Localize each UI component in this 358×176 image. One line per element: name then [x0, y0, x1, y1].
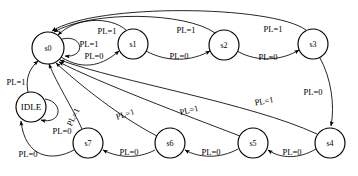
state-s2[interactable]: s2	[209, 30, 239, 60]
edge-label-s4-s5: PL=0	[283, 147, 302, 157]
edge-label-s0-s1: PL=0	[85, 51, 104, 61]
edge-label-s2-s0: PL=1	[177, 25, 196, 35]
edge-s4-s0[interactable]	[60, 60, 317, 134]
edge-label-idle-idle: PL=0	[53, 126, 72, 136]
edge-label-s6-s7: PL=0	[120, 147, 139, 157]
edge-label-s1-s0: PL=1	[98, 26, 117, 36]
edge-label-s7-s0: PL=1	[64, 106, 81, 127]
edge-label-s5-s6: PL=0	[202, 147, 221, 157]
edge-idle-s0[interactable]	[27, 61, 38, 92]
edge-s5-s0[interactable]	[59, 62, 240, 136]
state-idle[interactable]: IDLE	[16, 92, 46, 122]
state-label-idle: IDLE	[21, 102, 42, 112]
state-label-s0: s0	[44, 44, 51, 53]
state-s1[interactable]: s1	[118, 29, 148, 59]
edge-label-s5-s0: PL=1	[179, 103, 200, 117]
state-s7[interactable]: s7	[73, 128, 103, 158]
state-s4[interactable]: s4	[315, 128, 345, 158]
state-label-s3: s3	[309, 40, 316, 49]
edge-label-s2-s3: PL=0	[259, 52, 278, 62]
edge-label-idle-s0: PL=1	[7, 77, 26, 87]
edge-label-s3-s0: PL=1	[264, 24, 283, 34]
fsm-canvas: s0 s1 s2 s3 s4 s5	[0, 0, 358, 176]
edge-label-s3-s4: PL=0	[304, 87, 323, 97]
state-s0[interactable]: s0	[32, 32, 64, 64]
state-s6[interactable]: s6	[155, 128, 185, 158]
state-label-s6: s6	[166, 139, 173, 148]
state-label-s4: s4	[326, 139, 333, 148]
edge-s0-s0[interactable]	[62, 38, 80, 56]
edge-label-s6-s0: PL=1	[114, 106, 135, 121]
state-machine-diagram: s0 s1 s2 s3 s4 s5	[0, 0, 358, 176]
state-label-s2: s2	[220, 41, 227, 50]
edge-label-s7-idle: PL=0	[19, 149, 38, 159]
state-s5[interactable]: s5	[238, 128, 268, 158]
states-layer: s0 s1 s2 s3 s4 s5	[16, 29, 345, 158]
state-s3[interactable]: s3	[298, 29, 328, 59]
edge-label-s1-s2: PL=0	[170, 51, 189, 61]
state-label-s1: s1	[129, 40, 136, 49]
edge-label-s4-s0: PL=1	[254, 94, 274, 107]
edge-label-s0-s0: PL=1	[80, 39, 99, 49]
state-label-s5: s5	[249, 139, 256, 148]
state-label-s7: s7	[84, 139, 91, 148]
